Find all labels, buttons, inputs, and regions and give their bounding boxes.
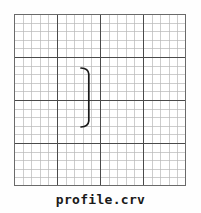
grid-canvas[interactable] — [14, 14, 186, 186]
grid-panel — [14, 14, 186, 186]
curve-viewer-window: profile.crv — [0, 0, 201, 213]
file-name-label: profile.crv — [0, 192, 201, 207]
